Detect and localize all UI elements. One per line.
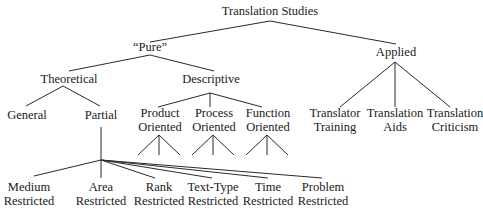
node-label: Descriptive [182, 72, 240, 86]
node-time-restricted: Time Restricted [243, 180, 294, 208]
node-label-line1: Product [138, 106, 182, 120]
node-general: General [7, 108, 47, 122]
node-label-line2: Restricted [76, 194, 127, 208]
node-label: General [7, 108, 47, 122]
node-label-line2: Restricted [4, 194, 55, 208]
node-rank-restricted: Rank Restricted [134, 180, 185, 208]
node-label-line2: Criticism [427, 120, 483, 134]
node-descriptive: Descriptive [182, 72, 240, 86]
node-label-line2: Restricted [134, 194, 185, 208]
node-translation-aids: Translation Aids [367, 106, 424, 134]
node-label-line2: Oriented [138, 120, 182, 134]
node-label-line2: Aids [367, 120, 424, 134]
node-applied: Applied [376, 45, 416, 59]
node-label: Partial [85, 108, 118, 122]
node-problem-restricted: Problem Restricted [298, 180, 349, 208]
node-translator-training: Translator Training [310, 106, 361, 134]
node-label-line2: Restricted [298, 194, 349, 208]
node-label-line1: Translation [427, 106, 483, 120]
node-label: Applied [376, 45, 416, 59]
node-label-line2: Oriented [246, 120, 290, 134]
node-label-line1: Area [76, 180, 127, 194]
node-label-line1: Text-Type [187, 180, 238, 194]
node-text-type-restricted: Text-Type Restricted [187, 180, 238, 208]
node-label-line2: Training [310, 120, 361, 134]
node-label-line1: Translator [310, 106, 361, 120]
node-process-oriented: Process Oriented [192, 106, 236, 134]
node-translation-criticism: Translation Criticism [427, 106, 483, 134]
node-medium-restricted: Medium Restricted [4, 180, 55, 208]
node-pure: “Pure” [133, 40, 167, 54]
node-label-line1: Function [246, 106, 290, 120]
node-theoretical: Theoretical [41, 72, 98, 86]
node-label: “Pure” [133, 40, 167, 54]
node-label-line1: Process [192, 106, 236, 120]
node-label-line1: Problem [298, 180, 349, 194]
node-label-line2: Oriented [192, 120, 236, 134]
node-label-line2: Restricted [187, 194, 238, 208]
node-area-restricted: Area Restricted [76, 180, 127, 208]
node-partial: Partial [85, 108, 118, 122]
node-label: Theoretical [41, 72, 98, 86]
node-label: Translation Studies [222, 4, 318, 18]
node-label-line1: Medium [4, 180, 55, 194]
node-label-line1: Time [243, 180, 294, 194]
node-label-line1: Rank [134, 180, 185, 194]
node-function-oriented: Function Oriented [246, 106, 290, 134]
node-label-line2: Restricted [243, 194, 294, 208]
node-product-oriented: Product Oriented [138, 106, 182, 134]
node-label-line1: Translation [367, 106, 424, 120]
node-translation-studies: Translation Studies [222, 4, 318, 18]
